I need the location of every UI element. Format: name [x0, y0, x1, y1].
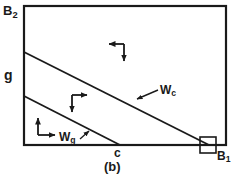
leader-line-wc: [137, 90, 158, 99]
x-axis-tick-label-c: c: [114, 147, 121, 159]
y-axis-label-b2: B2: [3, 4, 18, 20]
figure-diagram-b: B2 g Wc Wg c (b) B1: [0, 0, 236, 178]
y-axis-tick-label-g: g: [4, 68, 13, 82]
arrow-middle-region-icon: [72, 95, 87, 112]
plot-frame: [24, 6, 226, 145]
x-axis-label-b1: B1: [217, 150, 230, 164]
arrow-upper-region-icon: [109, 44, 124, 61]
curve-label-wc: Wc: [160, 84, 176, 98]
figure-caption: (b): [104, 160, 121, 173]
curve-wc-line: [24, 52, 209, 145]
arrow-lower-region-icon: [38, 118, 55, 135]
leader-line-wg: [80, 131, 89, 139]
curve-label-wg: Wg: [59, 131, 76, 145]
